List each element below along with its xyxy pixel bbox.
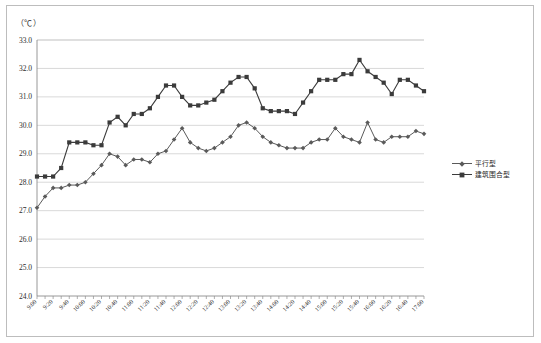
legend-label-enclosed: 建筑围合型 bbox=[475, 169, 510, 180]
data-point-square bbox=[414, 83, 418, 87]
data-point-square bbox=[220, 89, 224, 93]
data-point-diamond bbox=[365, 120, 370, 125]
y-axis-tick-label: 27.0 bbox=[19, 206, 32, 215]
data-point-square bbox=[164, 83, 168, 87]
data-point-diamond bbox=[317, 137, 322, 142]
legend-swatch-diamond-icon bbox=[452, 160, 472, 167]
data-point-square bbox=[75, 140, 79, 144]
x-axis-tick-label: 15:00 bbox=[313, 298, 328, 313]
data-point-square bbox=[349, 72, 353, 76]
data-point-square bbox=[212, 98, 216, 102]
x-axis-tick-label: 16:40 bbox=[394, 298, 409, 313]
series-parallel bbox=[35, 120, 427, 210]
chart-page: （℃） 33.032.031.030.029.028.027.026.025.0… bbox=[0, 0, 541, 343]
square-marker-icon bbox=[459, 172, 465, 178]
data-point-square bbox=[124, 123, 128, 127]
data-point-diamond bbox=[204, 149, 209, 154]
data-point-diamond bbox=[75, 183, 80, 188]
data-point-square bbox=[83, 140, 87, 144]
data-point-square bbox=[132, 112, 136, 116]
y-axis-tick-label: 28.0 bbox=[19, 178, 32, 187]
series-line bbox=[37, 60, 424, 177]
data-point-square bbox=[301, 100, 305, 104]
data-point-square bbox=[365, 69, 369, 73]
y-axis-tick-label: 32.0 bbox=[19, 64, 32, 73]
data-point-square bbox=[293, 112, 297, 116]
data-point-square bbox=[341, 72, 345, 76]
data-point-square bbox=[277, 109, 281, 113]
data-point-square bbox=[406, 78, 410, 82]
x-axis-tick-label: 12:20 bbox=[184, 298, 199, 313]
legend-label-parallel: 平行型 bbox=[475, 158, 496, 169]
x-axis-tick-label: 17:00 bbox=[410, 298, 425, 313]
y-axis-labels-group: 33.032.031.030.029.028.027.026.025.024.0 bbox=[19, 36, 32, 301]
data-point-square bbox=[390, 92, 394, 96]
data-point-square bbox=[204, 100, 208, 104]
data-point-diamond bbox=[140, 157, 145, 162]
data-point-square bbox=[285, 109, 289, 113]
legend: 平行型 建筑围合型 bbox=[452, 158, 532, 180]
data-point-diamond bbox=[357, 140, 362, 145]
legend-swatch-square-icon bbox=[452, 171, 472, 178]
data-point-square bbox=[228, 81, 232, 85]
axes-group bbox=[37, 40, 424, 296]
x-axis-tick-label: 12:00 bbox=[168, 298, 183, 313]
x-axis-tick-label: 11:00 bbox=[120, 298, 135, 313]
data-point-square bbox=[245, 75, 249, 79]
data-point-square bbox=[236, 75, 240, 79]
x-axis-labels-group: 9:009:209:4010:0010:2010:4011:0011:2011:… bbox=[25, 298, 425, 313]
data-point-square bbox=[180, 95, 184, 99]
data-point-square bbox=[325, 78, 329, 82]
data-point-square bbox=[140, 112, 144, 116]
y-axis-tick-label: 29.0 bbox=[19, 149, 32, 158]
data-point-square bbox=[333, 78, 337, 82]
x-axis-tick-label: 9:20 bbox=[41, 298, 54, 311]
data-point-diamond bbox=[398, 134, 403, 139]
data-point-square bbox=[51, 174, 55, 178]
data-point-diamond bbox=[59, 186, 64, 191]
data-point-diamond bbox=[277, 143, 282, 148]
x-axis-tick-label: 14:40 bbox=[297, 298, 312, 313]
data-point-diamond bbox=[422, 132, 427, 137]
x-axis-tick-label: 13:40 bbox=[249, 298, 264, 313]
y-axis-tick-label: 25.0 bbox=[19, 263, 32, 272]
data-point-square bbox=[309, 89, 313, 93]
data-point-diamond bbox=[349, 137, 354, 142]
data-point-square bbox=[357, 58, 361, 62]
series-enclosed bbox=[35, 58, 426, 179]
data-point-square bbox=[99, 143, 103, 147]
x-axis-tick-label: 13:20 bbox=[232, 298, 247, 313]
x-axis-tick-label: 15:20 bbox=[329, 298, 344, 313]
legend-item-parallel: 平行型 bbox=[452, 158, 532, 169]
data-point-diamond bbox=[373, 137, 378, 142]
data-point-square bbox=[107, 120, 111, 124]
data-point-square bbox=[188, 103, 192, 107]
x-axis-tick-label: 10:00 bbox=[71, 298, 86, 313]
x-axis-tick-label: 15:40 bbox=[345, 298, 360, 313]
data-point-square bbox=[422, 89, 426, 93]
data-point-diamond bbox=[67, 183, 72, 188]
data-point-square bbox=[269, 109, 273, 113]
data-point-square bbox=[43, 174, 47, 178]
data-point-square bbox=[91, 143, 95, 147]
x-axis-tick-label: 10:20 bbox=[87, 298, 102, 313]
x-axis-tick-label: 16:00 bbox=[361, 298, 376, 313]
data-point-square bbox=[35, 174, 39, 178]
data-point-square bbox=[116, 115, 120, 119]
y-axis-tick-label: 33.0 bbox=[19, 36, 32, 45]
y-axis-tick-label: 26.0 bbox=[19, 235, 32, 244]
data-point-square bbox=[196, 103, 200, 107]
data-point-square bbox=[172, 83, 176, 87]
x-axis-tick-label: 11:40 bbox=[152, 298, 167, 313]
x-ticks-group bbox=[37, 296, 424, 299]
y-axis-tick-label: 30.0 bbox=[19, 121, 32, 130]
x-axis-tick-label: 14:00 bbox=[265, 298, 280, 313]
data-point-diamond bbox=[285, 146, 290, 151]
data-point-square bbox=[261, 106, 265, 110]
data-point-square bbox=[317, 78, 321, 82]
data-point-diamond bbox=[293, 146, 298, 151]
y-axis-tick-label: 31.0 bbox=[19, 92, 32, 101]
data-point-square bbox=[156, 95, 160, 99]
x-axis-tick-label: 13:00 bbox=[216, 298, 231, 313]
series-group bbox=[35, 58, 427, 210]
